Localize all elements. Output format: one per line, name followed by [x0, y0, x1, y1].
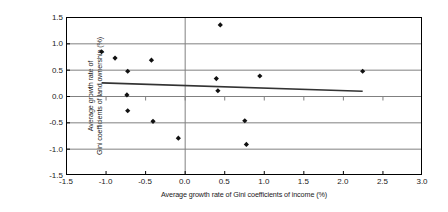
y-tick-label: 0.0 — [33, 92, 63, 101]
x-tick-label: 0.0 — [165, 177, 205, 186]
data-point-marker — [176, 136, 181, 141]
plot-area — [66, 17, 422, 175]
x-tick-label: -1.5 — [46, 177, 86, 186]
data-point-marker — [218, 22, 223, 27]
y-tick-label: -0.5 — [33, 118, 63, 127]
data-point-marker — [215, 88, 220, 93]
trend-line — [102, 83, 363, 91]
y-tick-label: 0.5 — [33, 65, 63, 74]
x-tick-label: 2.5 — [362, 177, 402, 186]
data-point-marker — [112, 55, 117, 60]
x-tick-label: -0.5 — [125, 177, 165, 186]
y-tick-label: 1.5 — [33, 13, 63, 22]
data-point-marker — [257, 73, 262, 78]
scatter-chart-figure: Average growth rate of Gini coefficients… — [0, 0, 448, 212]
x-tick-label: 1.5 — [283, 177, 323, 186]
data-point-marker — [149, 58, 154, 63]
data-point-marker — [214, 76, 219, 81]
x-tick-label: 0.5 — [204, 177, 244, 186]
data-point-marker — [360, 69, 365, 74]
plot-svg — [66, 17, 422, 175]
y-tick-label: -1.0 — [33, 144, 63, 153]
y-tick-label: 1.0 — [33, 39, 63, 48]
data-point-marker — [99, 49, 104, 54]
y-axis-title: Average growth rate of Gini coefficients… — [2, 17, 32, 175]
x-tick-label: 1.0 — [244, 177, 284, 186]
x-tick-label: 3.0 — [402, 177, 442, 186]
data-point-marker — [244, 142, 249, 147]
x-axis-title: Average growth rate of Gini coefficients… — [66, 190, 422, 199]
x-tick-label: -1.0 — [86, 177, 126, 186]
x-tick-label: 2.0 — [323, 177, 363, 186]
data-point-marker — [125, 69, 130, 74]
data-point-marker — [125, 108, 130, 113]
